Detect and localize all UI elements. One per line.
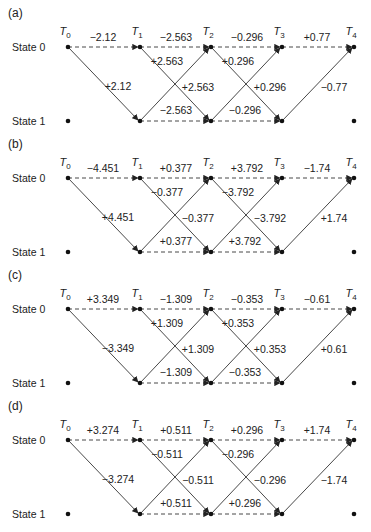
node-t0-s0 [66, 307, 71, 312]
branch-metric: +0.296 [229, 497, 262, 509]
node-t2-s1 [209, 119, 214, 124]
branch-metric: +2.563 [151, 55, 184, 67]
branch-metric: +0.353 [254, 343, 287, 355]
branch-metric: +1.74 [304, 424, 331, 436]
branch-metric: +0.377 [160, 235, 193, 247]
branch-metric: +2.12 [105, 80, 132, 92]
branch-metric: −0.377 [151, 186, 184, 198]
time-label-t3: T3 [273, 25, 285, 40]
node-t2-s0 [209, 307, 214, 312]
branch-metric: +3.274 [87, 424, 120, 436]
panel-a: (a)State 0State 1T0T1T2T3T4−2.12+2.12−2.… [8, 6, 357, 127]
branch-metric: +0.296 [231, 424, 264, 436]
node-t4-s1 [352, 119, 357, 124]
node-t0-s0 [66, 438, 71, 443]
state-1-label: State 1 [12, 246, 45, 258]
branch-metric: −2.563 [160, 104, 193, 116]
node-t1-s0 [138, 176, 143, 181]
branch-metric: −2.12 [90, 31, 117, 43]
time-label-t0: T0 [59, 418, 71, 433]
time-label-t3: T3 [273, 418, 285, 433]
time-label-t2: T2 [202, 418, 214, 433]
branch-metric: +1.74 [321, 212, 348, 224]
branch-metric: −0.511 [151, 448, 183, 460]
node-t2-s1 [209, 250, 214, 255]
node-t0-s1 [66, 512, 71, 517]
node-t4-s0 [352, 176, 357, 181]
node-t0-s1 [66, 381, 71, 386]
branch-metric: +0.353 [222, 317, 255, 329]
node-t3-s1 [280, 381, 285, 386]
time-label-t4: T4 [345, 287, 357, 302]
node-t4-s1 [352, 381, 357, 386]
branch-metric: +2.563 [182, 81, 215, 93]
panel-label: (b) [8, 137, 23, 151]
panel-label: (d) [8, 399, 23, 413]
node-t2-s0 [209, 176, 214, 181]
node-t2-s1 [209, 512, 214, 517]
panel-label: (a) [8, 6, 23, 20]
branch-metric: +0.77 [304, 31, 331, 43]
state-1-label: State 1 [12, 115, 45, 127]
node-t0-s1 [66, 250, 71, 255]
branch-metric: −0.353 [231, 293, 264, 305]
time-label-t0: T0 [59, 287, 71, 302]
state-0-label: State 0 [12, 303, 45, 315]
time-label-t4: T4 [345, 25, 357, 40]
branch-metric: −0.77 [321, 81, 348, 93]
time-label-t3: T3 [273, 287, 285, 302]
branch-metric: −3.792 [254, 212, 287, 224]
state-1-label: State 1 [12, 508, 45, 520]
time-label-t1: T1 [131, 156, 143, 171]
branch-metric: +3.792 [229, 235, 262, 247]
state-0-label: State 0 [12, 172, 45, 184]
branch-metric: −0.296 [222, 448, 255, 460]
branch-metric: −0.353 [229, 366, 262, 378]
node-t3-s1 [280, 250, 285, 255]
node-t3-s0 [280, 307, 285, 312]
branch-metric: +0.511 [160, 497, 192, 509]
node-t0-s0 [66, 176, 71, 181]
node-t3-s0 [280, 45, 285, 50]
branch-metric: −1.309 [160, 366, 193, 378]
time-label-t1: T1 [131, 418, 143, 433]
node-t4-s1 [352, 512, 357, 517]
time-label-t1: T1 [131, 287, 143, 302]
node-t4-s0 [352, 307, 357, 312]
node-t1-s1 [138, 381, 143, 386]
node-t4-s0 [352, 45, 357, 50]
branch-metric: −0.296 [231, 31, 264, 43]
branch-metric: −1.309 [160, 293, 193, 305]
branch-metric: +1.309 [151, 317, 184, 329]
node-t4-s1 [352, 250, 357, 255]
branch-metric: −4.451 [87, 162, 120, 174]
panel-b: (b)State 0State 1T0T1T2T3T4−4.451+4.451+… [8, 137, 357, 258]
node-t1-s0 [138, 45, 143, 50]
branch-metric: +3.349 [87, 293, 120, 305]
node-t1-s1 [138, 512, 143, 517]
time-label-t4: T4 [345, 156, 357, 171]
branch-metric: +0.377 [160, 162, 193, 174]
time-label-t0: T0 [59, 25, 71, 40]
branch-metric: −1.74 [321, 474, 348, 486]
node-t0-s0 [66, 45, 71, 50]
branch-metric: +0.511 [160, 424, 192, 436]
node-t2-s0 [209, 438, 214, 443]
node-t3-s1 [280, 512, 285, 517]
branch-metric: −0.511 [182, 474, 214, 486]
node-t1-s1 [138, 250, 143, 255]
trellis-diagram: (a)State 0State 1T0T1T2T3T4−2.12+2.12−2.… [0, 0, 371, 532]
panel-label: (c) [8, 268, 22, 282]
branch-metric: −3.274 [102, 473, 135, 485]
time-label-t4: T4 [345, 418, 357, 433]
branch-metric: −1.74 [304, 162, 331, 174]
branch-metric: +3.792 [231, 162, 264, 174]
time-label-t2: T2 [202, 25, 214, 40]
node-t3-s0 [280, 438, 285, 443]
time-label-t2: T2 [202, 287, 214, 302]
panel-d: (d)State 0State 1T0T1T2T3T4+3.274−3.274+… [8, 399, 357, 520]
branch-metric: −0.296 [229, 104, 262, 116]
state-0-label: State 0 [12, 434, 45, 446]
time-label-t1: T1 [131, 25, 143, 40]
node-t0-s1 [66, 119, 71, 124]
